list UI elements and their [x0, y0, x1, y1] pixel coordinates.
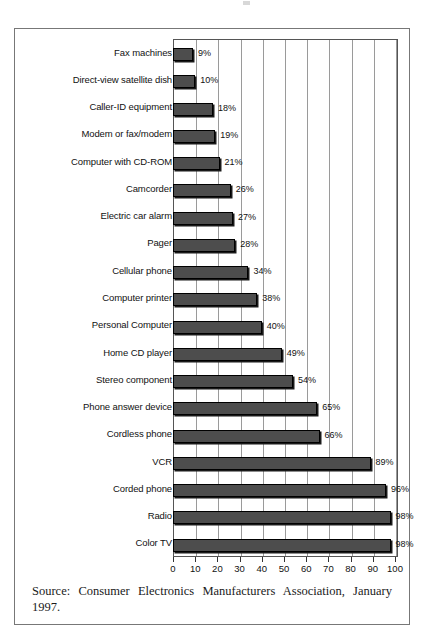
category-label: Cellular phone [15, 266, 172, 276]
x-tick-mark [306, 557, 307, 562]
x-tick-label: 90 [361, 563, 385, 575]
bar-value-label: 98% [396, 538, 414, 551]
bar-row: 96% [174, 476, 399, 505]
category-label: Home CD player [15, 348, 172, 358]
bar-row: 65% [174, 394, 399, 423]
x-tick-label: 50 [272, 563, 296, 575]
bar-value-label: 28% [240, 238, 258, 251]
x-tick-label: 20 [205, 563, 229, 575]
source-note: Source: Consumer Electronics Manufacture… [32, 583, 392, 615]
x-tick-mark [195, 557, 196, 562]
bar-value-label: 96% [391, 483, 409, 496]
bar [173, 539, 391, 552]
bar-value-label: 40% [267, 320, 285, 333]
category-label: Color TV [15, 538, 172, 548]
bar-row: 10% [174, 67, 399, 96]
bar-row: 19% [174, 122, 399, 151]
category-label: Radio [15, 511, 172, 521]
x-tick-label: 80 [339, 563, 363, 575]
bar [173, 48, 193, 61]
x-tick-mark [395, 557, 396, 562]
bar-row: 38% [174, 285, 399, 314]
bar-chart: Fax machinesDirect-view satellite dishCa… [15, 29, 411, 569]
category-label: Phone answer device [15, 402, 172, 412]
category-label: Fax machines [15, 48, 172, 58]
bar-row: 26% [174, 176, 399, 205]
bar-value-label: 65% [322, 401, 340, 414]
x-tick-mark [284, 557, 285, 562]
bar [173, 457, 371, 470]
bar-value-label: 18% [218, 102, 236, 115]
category-label: Direct-view satellite dish [15, 75, 172, 85]
bar [173, 130, 215, 143]
category-label: Computer with CD-ROM [15, 157, 172, 167]
bar-row: 18% [174, 95, 399, 124]
bar-row: 54% [174, 367, 399, 396]
bar-row: 21% [174, 149, 399, 178]
category-label: Cordless phone [15, 429, 172, 439]
x-tick-label: 60 [294, 563, 318, 575]
category-label: Computer printer [15, 293, 172, 303]
category-label: Corded phone [15, 484, 172, 494]
x-tick-label: 70 [316, 563, 340, 575]
x-tick-label: 10 [183, 563, 207, 575]
bar [173, 157, 220, 170]
category-label: Pager [15, 238, 172, 248]
bar-row: 49% [174, 340, 399, 369]
category-label: Modem or fax/modem [15, 129, 172, 139]
bar [173, 348, 282, 361]
bar-row: 89% [174, 449, 399, 478]
bar-row: 40% [174, 313, 399, 342]
category-label: Caller-ID equipment [15, 102, 172, 112]
bar-value-label: 26% [236, 183, 254, 196]
bar-value-label: 89% [376, 456, 394, 469]
bar-value-label: 66% [325, 429, 343, 442]
bar-value-label: 34% [253, 265, 271, 278]
x-tick-mark [328, 557, 329, 562]
bar-value-label: 54% [298, 374, 316, 387]
x-tick-mark [373, 557, 374, 562]
bar [173, 321, 262, 334]
bar-value-label: 21% [225, 156, 243, 169]
bar [173, 212, 233, 225]
x-tick-mark [217, 557, 218, 562]
bar-series: 9%10%18%19%21%26%27%28%34%38%40%49%54%65… [174, 40, 397, 556]
bar [173, 239, 235, 252]
bar [173, 184, 231, 197]
category-label: Camcorder [15, 184, 172, 194]
bar-row: 28% [174, 231, 399, 260]
bar [173, 484, 386, 497]
x-tick-mark [173, 557, 174, 562]
x-tick-label: 0 [161, 563, 185, 575]
bar-value-label: 27% [238, 211, 256, 224]
bar-value-label: 98% [396, 510, 414, 523]
x-axis: 0102030405060708090100 [173, 557, 398, 581]
category-label: VCR [15, 457, 172, 467]
bar-value-label: 38% [262, 292, 280, 305]
x-tick-label: 30 [228, 563, 252, 575]
bar [173, 375, 293, 388]
bar-row: 27% [174, 204, 399, 233]
figure-frame: Fax machinesDirect-view satellite dishCa… [14, 28, 410, 625]
plot-area: 9%10%18%19%21%26%27%28%34%38%40%49%54%65… [173, 39, 398, 557]
bar [173, 266, 248, 279]
bar [173, 402, 317, 415]
x-tick-mark [262, 557, 263, 562]
bar [173, 75, 195, 88]
category-label: Stereo component [15, 375, 172, 385]
bar-row: 34% [174, 258, 399, 287]
category-label: Personal Computer [15, 320, 172, 330]
bar-row: 66% [174, 422, 399, 451]
bar [173, 103, 213, 116]
bar-value-label: 9% [198, 47, 211, 60]
bar-value-label: 19% [220, 129, 238, 142]
bar-row: 98% [174, 531, 399, 560]
bar-value-label: 49% [287, 347, 305, 360]
category-label: Electric car alarm [15, 211, 172, 221]
page-header-artifact [243, 1, 250, 5]
bar [173, 430, 320, 443]
x-tick-label: 40 [250, 563, 274, 575]
x-tick-label: 100 [383, 563, 407, 575]
x-tick-mark [351, 557, 352, 562]
x-tick-mark [240, 557, 241, 562]
